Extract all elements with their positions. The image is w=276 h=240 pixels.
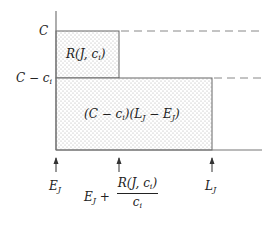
fraction: R(J, ci) ci: [117, 177, 158, 210]
x-label-ej: EJ: [49, 180, 61, 194]
arrow-up-icon: [54, 157, 59, 172]
small-rect-label: R(J, ci): [66, 48, 105, 62]
arrow-up-icon: [210, 157, 215, 172]
y-label-c-minus-ci: C − ci: [16, 72, 52, 86]
x-label-ej-plus-ratio: EJ + R(J, ci) ci: [84, 177, 158, 210]
y-label-c: C: [39, 25, 48, 37]
x-label-lj: LJ: [205, 180, 216, 194]
large-rect-label: (C − ci)(LJ − EJ): [84, 108, 180, 122]
arrow-up-icon: [117, 157, 122, 172]
